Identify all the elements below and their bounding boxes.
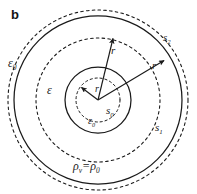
label-r-small: r — [95, 84, 99, 94]
label-r-up: r — [111, 45, 115, 56]
label-epsilon-zero-outer: ε0 — [8, 57, 16, 69]
panel-letter: b — [11, 8, 19, 21]
label-r-right: r — [152, 60, 156, 71]
label-rho-0-sub: 0 — [96, 166, 100, 175]
label-epsilon-zero-outer-sub: 0 — [13, 63, 17, 72]
label-s2-sub: 2 — [167, 38, 170, 45]
label-s1: s1 — [155, 122, 163, 133]
label-charge-density: ρv=ρ0 — [73, 160, 100, 172]
label-epsilon-zero-inner-sub: 0 — [92, 121, 95, 128]
label-epsilon-zero-inner: ε0 — [88, 116, 95, 126]
label-epsilon-medium: ε — [47, 84, 52, 96]
label-rho-v-sub: v — [79, 166, 82, 175]
figure-panel-b: b ε0 ε ε0 s0 s1 s2 r r r ρv=ρ0 — [0, 0, 197, 194]
label-s1-sub: 1 — [159, 128, 162, 135]
label-s2: s2 — [163, 32, 171, 43]
label-rho-v-base: ρ — [73, 159, 79, 173]
label-s0: s0 — [106, 105, 114, 116]
label-rho-equals: = — [82, 159, 90, 173]
label-s0-sub: 0 — [110, 111, 113, 118]
